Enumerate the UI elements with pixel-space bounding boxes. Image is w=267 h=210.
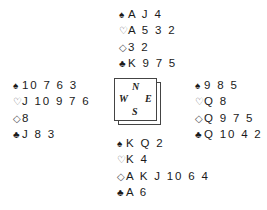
- east-hand: ♠9 8 5 ♡Q 8 ◇Q 9 7 5 ♣Q 10 4 2: [195, 77, 263, 142]
- club-icon: ♣: [117, 185, 126, 201]
- west-clubs: ♣J 8 3: [13, 126, 91, 142]
- east-clubs-cards: Q 10 4 2: [204, 126, 263, 142]
- heart-icon: ♡: [195, 94, 204, 110]
- club-icon: ♣: [13, 127, 22, 143]
- north-diamonds-cards: 3 2: [128, 39, 149, 55]
- west-clubs-cards: J 8 3: [22, 126, 56, 142]
- west-spades: ♠10 7 6 3: [13, 77, 91, 93]
- north-clubs: ♣K 9 7 5: [119, 55, 177, 71]
- diamond-icon: ◇: [117, 169, 126, 185]
- north-hand: ♠A J 4 ♡A 5 3 2 ◇3 2 ♣K 9 7 5: [119, 6, 177, 71]
- north-diamonds: ◇3 2: [119, 39, 177, 55]
- north-hearts: ♡A 5 3 2: [119, 22, 177, 38]
- east-hearts: ♡Q 8: [195, 93, 263, 109]
- north-clubs-cards: K 9 7 5: [128, 55, 177, 71]
- compass-west-label: W: [119, 94, 128, 104]
- east-spades: ♠9 8 5: [195, 77, 263, 93]
- south-clubs: ♣A 6: [117, 184, 210, 200]
- diamond-icon: ◇: [119, 40, 128, 56]
- west-diamonds: ◇8: [13, 110, 91, 126]
- south-clubs-cards: A 6: [126, 184, 148, 200]
- south-hearts: ♡K 4: [117, 151, 210, 167]
- compass-south-label: S: [132, 107, 138, 117]
- south-diamonds: ◇A K J 10 6 4: [117, 168, 210, 184]
- south-hearts-cards: K 4: [126, 151, 149, 167]
- south-spades-cards: K Q 2: [126, 135, 164, 151]
- diamond-icon: ◇: [13, 111, 22, 127]
- east-hearts-cards: Q 8: [204, 93, 228, 109]
- east-diamonds: ◇Q 9 7 5: [195, 110, 263, 126]
- spade-icon: ♠: [13, 78, 22, 94]
- club-icon: ♣: [119, 56, 128, 72]
- east-spades-cards: 9 8 5: [204, 77, 239, 93]
- compass-box: N W E S: [114, 78, 157, 121]
- spade-icon: ♠: [195, 78, 204, 94]
- west-hand: ♠10 7 6 3 ♡J 10 9 7 6 ◇8 ♣J 8 3: [13, 77, 91, 142]
- south-spades: ♠K Q 2: [117, 135, 210, 151]
- spade-icon: ♠: [117, 136, 126, 152]
- west-spades-cards: 10 7 6 3: [22, 77, 78, 93]
- north-spades: ♠A J 4: [119, 6, 177, 22]
- west-diamonds-cards: 8: [22, 110, 30, 126]
- south-diamonds-cards: A K J 10 6 4: [126, 168, 210, 184]
- spade-icon: ♠: [119, 7, 128, 23]
- diamond-icon: ◇: [195, 111, 204, 127]
- heart-icon: ♡: [117, 152, 126, 168]
- compass-east-label: E: [145, 94, 152, 104]
- west-hearts-cards: J 10 9 7 6: [22, 93, 91, 109]
- south-hand: ♠K Q 2 ♡K 4 ◇A K J 10 6 4 ♣A 6: [117, 135, 210, 200]
- heart-icon: ♡: [119, 23, 128, 39]
- east-diamonds-cards: Q 9 7 5: [204, 110, 254, 126]
- north-spades-cards: A J 4: [128, 6, 163, 22]
- west-hearts: ♡J 10 9 7 6: [13, 93, 91, 109]
- north-hearts-cards: A 5 3 2: [128, 22, 176, 38]
- compass-north-label: N: [132, 82, 139, 92]
- heart-icon: ♡: [13, 94, 22, 110]
